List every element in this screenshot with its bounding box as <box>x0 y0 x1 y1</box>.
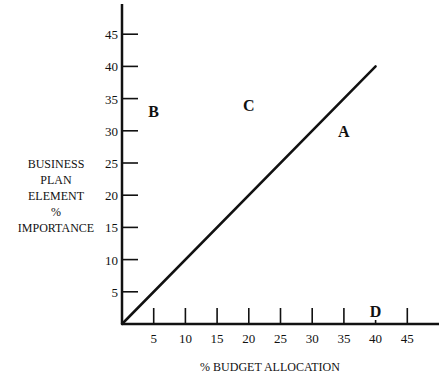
x-tick-label: 35 <box>337 331 350 346</box>
x-tick-label: 20 <box>242 331 255 346</box>
y-axis-title-line: % <box>51 205 61 219</box>
y-axis-title-line: BUSINESS <box>28 157 85 171</box>
y-axis-title-line: ELEMENT <box>28 189 85 203</box>
x-tick-label: 15 <box>211 331 224 346</box>
region-label-c: C <box>243 97 255 114</box>
y-tick-label: 35 <box>105 92 118 107</box>
region-label-d: D <box>370 303 382 320</box>
x-axis-title: % BUDGET ALLOCATION <box>200 360 340 374</box>
y-tick-label: 25 <box>105 156 118 171</box>
y-axis-title-line: IMPORTANCE <box>18 221 94 235</box>
y-tick-label: 10 <box>105 253 118 268</box>
x-tick-label: 5 <box>150 331 157 346</box>
y-tick-label: 40 <box>105 59 118 74</box>
x-tick-label: 40 <box>369 331 382 346</box>
y-axis-title-line: PLAN <box>40 173 72 187</box>
y-tick-label: 45 <box>105 27 118 42</box>
x-tick-label: 25 <box>274 331 287 346</box>
y-tick-label: 15 <box>105 220 118 235</box>
x-tick-label: 30 <box>306 331 319 346</box>
y-tick-label: 5 <box>112 285 119 300</box>
y-tick-label: 30 <box>105 124 118 139</box>
region-label-a: A <box>338 123 350 140</box>
region-labels: ABCD <box>148 97 381 320</box>
region-label-b: B <box>148 103 159 120</box>
x-tick-label: 10 <box>179 331 192 346</box>
chart: 5101520253035404551015202530354045 ABCD … <box>0 0 447 380</box>
x-tick-label: 45 <box>401 331 414 346</box>
y-axis-title: BUSINESSPLANELEMENT%IMPORTANCE <box>18 157 94 235</box>
y-tick-label: 20 <box>105 188 118 203</box>
